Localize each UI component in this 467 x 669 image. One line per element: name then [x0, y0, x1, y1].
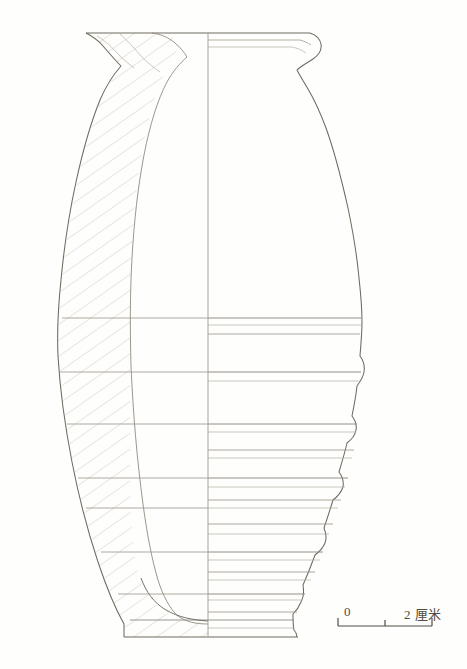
vessel-section-half — [20, 20, 220, 660]
right-rim-under-line — [208, 40, 311, 45]
vessel-profile-half — [208, 33, 364, 637]
scale-bar-zero-label: 0 — [344, 604, 351, 620]
right-outer-contour — [293, 33, 364, 637]
vessel-drawing — [0, 0, 467, 669]
figure-root: 0 2 厘米 — [0, 0, 467, 669]
right-band-lines — [208, 318, 361, 628]
section-hatching — [20, 20, 220, 660]
right-rim-inner-line — [208, 47, 306, 53]
scale-bar-max-label: 2 厘米 — [404, 604, 442, 623]
